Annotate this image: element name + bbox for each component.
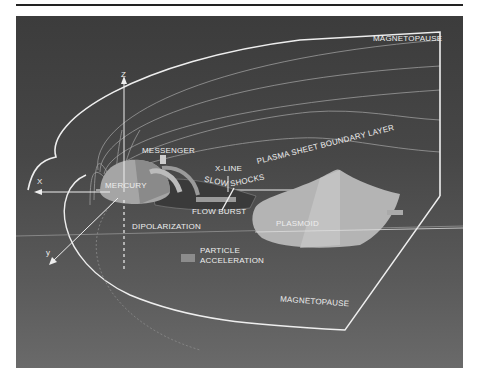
messenger-spacecraft: [160, 155, 166, 164]
particle-acceleration-label-line2: ACCELERATION: [200, 257, 264, 265]
diagram-panel: [16, 16, 463, 368]
y-axis-line: [52, 198, 118, 262]
particle-acceleration-label-line1: PARTICLE: [200, 247, 240, 255]
x-line-label: X-LINE: [215, 165, 242, 173]
x-axis-arrowhead: [34, 189, 42, 195]
magnetopause-top-label: MAGNETOPAUSE: [373, 35, 442, 43]
particle-acceleration-swatch: [181, 254, 195, 262]
top-rule: [16, 4, 463, 6]
dipolarization-label: DIPOLARIZATION: [132, 223, 201, 231]
x-axis-label: X: [37, 178, 43, 186]
equatorial-plane-line: [16, 226, 463, 236]
flow-burst-bar: [196, 197, 236, 202]
messenger-label: MESSENGER: [142, 147, 195, 155]
mercury-label: MERCURY: [105, 182, 147, 190]
plasmoid-label: PLASMOID: [276, 220, 319, 228]
y-axis-label: y: [46, 249, 50, 257]
magnetosphere-diagram: [16, 16, 463, 368]
orbit-path: [96, 195, 200, 350]
plasmoid-motion-arrow: [387, 210, 403, 215]
z-axis-label: Z: [121, 71, 126, 79]
flow-burst-label: FLOW BURST: [192, 208, 246, 216]
